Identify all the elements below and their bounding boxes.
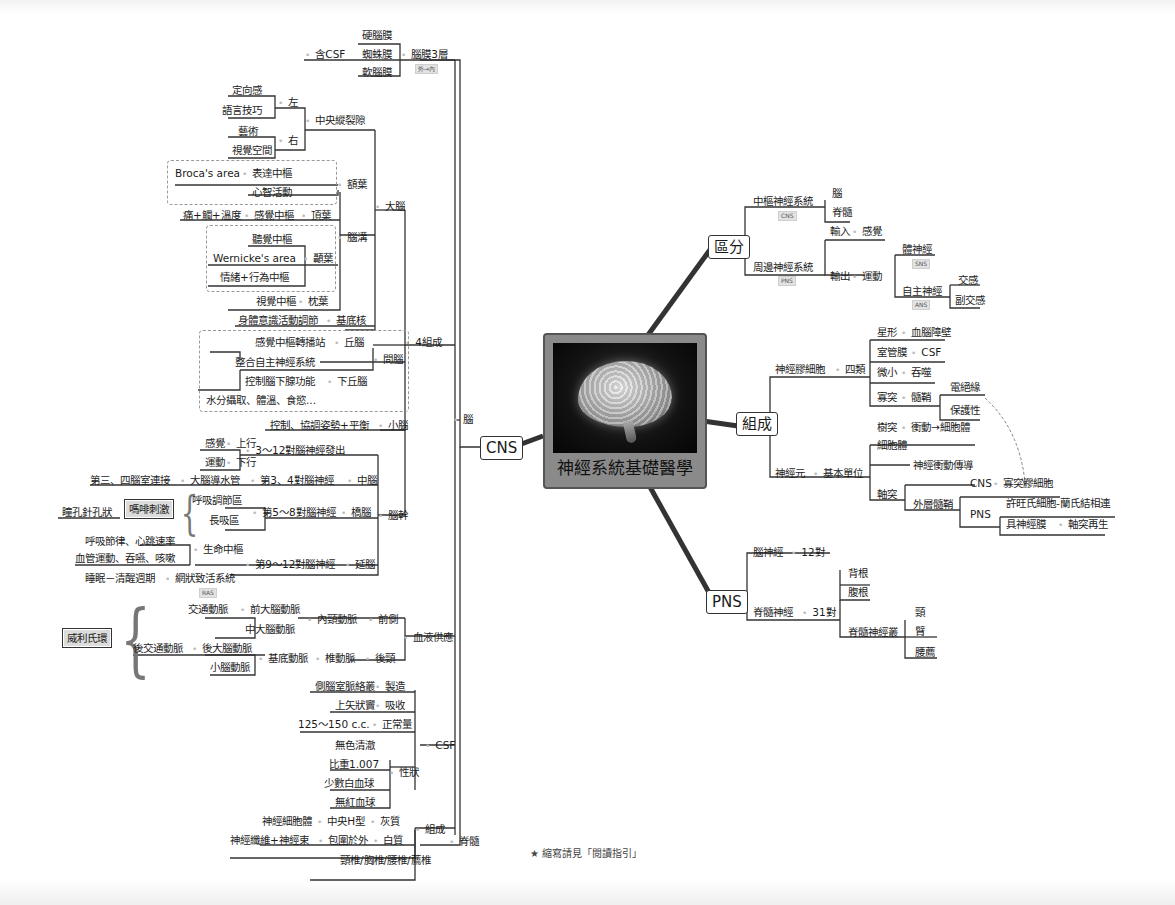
node-impulse-to-soma[interactable]: 衝動→細胞體 — [896, 420, 970, 435]
node-neuron[interactable]: 神經元 — [775, 466, 805, 480]
node-production[interactable]: 製造 — [370, 679, 405, 694]
branch-compose[interactable]: 組成 — [736, 412, 778, 436]
node-properties[interactable]: 性狀 — [384, 765, 419, 780]
node-brain[interactable]: 腦 — [448, 412, 473, 427]
node-glia[interactable]: 神經膠細胞 — [775, 362, 825, 376]
node-frontal-lobe[interactable]: 額葉 — [332, 177, 367, 192]
node-four-types[interactable]: 四類 — [830, 362, 865, 377]
node-cranial-9-12[interactable]: 第9～12對腦神經 — [240, 557, 335, 572]
node-pca[interactable]: 後大腦動脈 — [187, 641, 252, 656]
node-midbrain[interactable]: 中腦 — [342, 473, 377, 488]
node-art[interactable]: 藝術 — [238, 124, 258, 138]
node-oligodendrocyte[interactable]: 寡突膠細胞 — [988, 476, 1053, 491]
node-oligo[interactable]: 寡突 — [877, 390, 897, 404]
node-basilar[interactable]: 基底動脈 — [253, 651, 308, 666]
node-pinpoint-pupil[interactable]: 瞳孔針孔狀 — [62, 505, 112, 519]
node-12-pairs[interactable]: 12對 — [786, 545, 825, 560]
node-peripheral-ns[interactable]: 周邊神經系統 — [753, 260, 813, 274]
node-pons[interactable]: 橋腦 — [336, 505, 371, 520]
node-soma[interactable]: 細胞體 — [877, 438, 907, 452]
node-sensory-center[interactable]: 感覺中樞 — [239, 208, 294, 223]
node-myelin[interactable]: 髓鞘 — [896, 390, 931, 405]
node-lumbosacral[interactable]: 腰薦 — [915, 645, 935, 659]
node-pia[interactable]: 軟腦膜 — [362, 65, 392, 79]
node-vertebral-segments[interactable]: 頸椎/胸椎/腰椎/薦椎 — [340, 853, 431, 867]
node-cranial-5-8[interactable]: 第5～8對腦神經 — [247, 505, 336, 520]
node-expression-center[interactable]: 表達中樞 — [237, 166, 292, 181]
node-morphine[interactable]: 嗎啡刺激 — [124, 499, 174, 519]
node-ependymal-csf[interactable]: CSF — [906, 345, 941, 360]
node-ventricle-connect[interactable]: 第三、四腦室連接 — [90, 473, 170, 487]
node-resp-heart[interactable]: 呼吸節律、心跳速率 — [85, 534, 175, 548]
node-dendrite[interactable]: 樹突 — [877, 420, 897, 434]
branch-pns[interactable]: PNS — [706, 590, 748, 614]
node-vaso-swallow-cough[interactable]: 血管運動、吞嚥、咳嗽 — [75, 551, 175, 565]
node-dura[interactable]: 硬腦膜 — [362, 28, 392, 42]
node-ventral-root[interactable]: 腹根 — [848, 585, 868, 599]
node-protection[interactable]: 保護性 — [950, 403, 980, 417]
node-mca[interactable]: 中大腦動脈 — [245, 622, 295, 636]
node-sleep-wake[interactable]: 睡眠－清醒週期 — [85, 571, 155, 585]
node-somatic[interactable]: 體神經 — [902, 242, 932, 256]
node-specific-gravity[interactable]: 比重1.007 — [329, 757, 379, 771]
node-contains-csf[interactable]: 含CSF — [300, 47, 345, 62]
node-integrate-ans[interactable]: 整合自主神經系統 — [235, 355, 315, 369]
node-basic-unit[interactable]: 基本單位 — [808, 466, 863, 481]
node-ascending[interactable]: 上行 — [221, 436, 256, 451]
node-astro[interactable]: 星形 — [877, 325, 897, 339]
node-body-awareness[interactable]: 身體意識活動調節 — [238, 313, 318, 327]
node-neuron-bodies[interactable]: 神經細胞體 — [262, 814, 312, 828]
node-posture-balance[interactable]: 控制、協調姿勢+平衡 — [270, 418, 369, 432]
node-sensory[interactable]: 感覺 — [847, 224, 882, 239]
node-right[interactable]: 右 — [273, 133, 298, 148]
node-temporal-lobe[interactable]: 顳葉 — [298, 251, 333, 266]
node-31-pairs[interactable]: 31對 — [797, 605, 836, 620]
node-absorption[interactable]: 吸收 — [370, 698, 405, 713]
node-respiratory-regulation[interactable]: 呼吸調節區 — [192, 493, 242, 507]
node-fibers-tracts[interactable]: 神經纖維+神經束 — [230, 833, 309, 847]
node-few-wbc[interactable]: 少數白血球 — [324, 776, 374, 790]
node-parasympathetic[interactable]: 副交感 — [955, 293, 985, 307]
node-medulla[interactable]: 延腦 — [340, 557, 375, 572]
node-visuospatial[interactable]: 視覺空間 — [232, 143, 272, 157]
node-h-shape[interactable]: 中央H型 — [312, 814, 365, 829]
node-cerebellar-artery[interactable]: 小腦動脈 — [210, 660, 250, 674]
node-cerebrum[interactable]: 大腦 — [370, 199, 405, 214]
node-spinal-r[interactable]: 脊髓 — [832, 205, 852, 219]
node-central-ns[interactable]: 中樞神經系統 — [753, 194, 813, 208]
node-autonomic[interactable]: 自主神經 — [902, 284, 942, 298]
node-basal-ganglia[interactable]: 基底核 — [321, 313, 366, 328]
node-normal-amount[interactable]: 正常量 — [367, 717, 412, 732]
node-apneustic[interactable]: 長吸區 — [209, 513, 239, 527]
central-topic[interactable]: 神經系統基礎醫學 — [543, 333, 707, 489]
node-brachial[interactable]: 臂 — [915, 624, 925, 638]
node-cranial-nerves[interactable]: 腦神經 — [753, 545, 783, 559]
node-colorless[interactable]: 無色清澈 — [335, 738, 375, 752]
node-neurilemma[interactable]: 具神經膜 — [1006, 517, 1046, 531]
node-emotion-behavior[interactable]: 情緒+行為中樞 — [220, 270, 289, 284]
node-no-rbc[interactable]: 無紅血球 — [335, 795, 375, 809]
node-spinal-cord[interactable]: 脊髓 — [444, 834, 479, 849]
node-arachnoid[interactable]: 蜘蛛膜 — [362, 47, 392, 61]
branch-classify[interactable]: 區分 — [708, 235, 750, 259]
node-pituitary-control[interactable]: 控制腦下腺功能 — [245, 374, 315, 388]
node-auditory-center[interactable]: 聽覺中樞 — [252, 232, 292, 246]
node-diencephalon[interactable]: 間腦 — [368, 352, 403, 367]
node-pain-touch-temp[interactable]: 痛+觸+溫度 — [183, 208, 241, 222]
node-anterior[interactable]: 前側 — [363, 612, 398, 627]
node-circle-of-willis[interactable]: 威利氏環 — [62, 628, 112, 648]
node-hypothalamus[interactable]: 下丘腦 — [322, 374, 367, 389]
node-parietal-lobe[interactable]: 頂葉 — [296, 208, 331, 223]
node-aca[interactable]: 前大腦動脈 — [235, 602, 300, 617]
node-sulci[interactable]: 腦溝 — [332, 230, 367, 245]
node-dorsal-root[interactable]: 背根 — [848, 566, 868, 580]
branch-cns[interactable]: CNS — [480, 436, 523, 460]
node-blood-supply[interactable]: 血液供應 — [398, 630, 453, 645]
node-left[interactable]: 左 — [273, 95, 298, 110]
node-sagittal-sinus[interactable]: 上矢狀竇 — [335, 698, 375, 712]
node-language[interactable]: 語言技巧 — [222, 103, 262, 117]
node-sympathetic[interactable]: 交感 — [958, 273, 978, 287]
node-bbb[interactable]: 血腦障壁 — [896, 325, 951, 340]
node-micro[interactable]: 微小 — [877, 365, 897, 379]
node-sensory-relay[interactable]: 感覺中樞轉播站 — [255, 335, 325, 349]
